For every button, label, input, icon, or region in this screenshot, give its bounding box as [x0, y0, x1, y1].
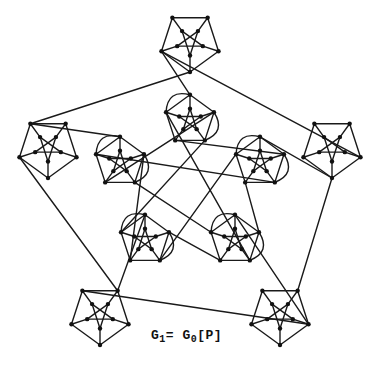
edge	[303, 152, 319, 157]
vertex	[209, 230, 213, 234]
vertex	[322, 135, 326, 139]
graph-figure	[0, 0, 381, 368]
edge	[100, 324, 129, 345]
vertex	[74, 155, 78, 159]
edge	[280, 324, 309, 345]
edge	[71, 319, 87, 324]
edge	[145, 215, 169, 232]
vertex	[28, 122, 32, 126]
edge	[190, 95, 214, 112]
vertex	[226, 247, 230, 251]
edge	[30, 72, 190, 124]
vertex	[118, 148, 122, 152]
vertex	[46, 159, 50, 163]
vertex	[248, 258, 252, 262]
vertex	[188, 70, 192, 74]
vertex	[164, 110, 168, 114]
vertex	[132, 234, 136, 238]
vertex	[216, 49, 220, 53]
edge	[161, 51, 360, 157]
vertex	[222, 234, 226, 238]
vertex	[234, 152, 238, 156]
edge	[61, 152, 77, 157]
vertex	[38, 135, 42, 139]
vertex	[249, 322, 253, 326]
figure-caption: G1= G0[P]	[151, 328, 222, 345]
edge	[251, 324, 280, 345]
vertex	[244, 234, 248, 238]
vertex	[301, 155, 305, 159]
vertex	[175, 44, 179, 48]
vertex	[218, 258, 222, 262]
edge	[245, 182, 259, 232]
vertex	[247, 156, 251, 160]
vertex	[278, 326, 282, 330]
vertex	[270, 302, 274, 306]
vertex	[111, 317, 115, 321]
vertex	[188, 53, 192, 57]
edge	[251, 291, 262, 325]
vertex	[167, 230, 171, 234]
vertex	[98, 326, 102, 330]
vertex	[159, 49, 163, 53]
vertex	[63, 122, 67, 126]
vertex	[343, 150, 347, 154]
edge	[30, 124, 40, 137]
vertex	[243, 180, 247, 184]
edge	[298, 291, 309, 325]
edge	[161, 46, 177, 51]
edge	[303, 124, 314, 158]
edge	[71, 291, 82, 325]
vertex	[126, 322, 130, 326]
edge	[298, 178, 332, 291]
vertex	[205, 16, 209, 20]
edge	[340, 124, 350, 137]
vertex	[46, 176, 50, 180]
caption-eq: = G	[166, 328, 191, 343]
edge	[96, 154, 105, 182]
vertex	[265, 317, 269, 321]
vertex	[80, 289, 84, 293]
vertex	[143, 226, 147, 230]
vertex	[201, 44, 205, 48]
vertex	[143, 213, 147, 217]
vertex	[54, 135, 58, 139]
vertex	[115, 289, 119, 293]
vertex	[233, 213, 237, 217]
vertex	[286, 302, 290, 306]
edge	[198, 18, 208, 31]
edge	[161, 18, 172, 52]
edge	[172, 18, 182, 31]
edge	[208, 18, 219, 52]
vertex	[173, 138, 177, 142]
edge	[135, 182, 211, 232]
vertex	[338, 135, 342, 139]
vertex	[158, 258, 162, 262]
edge	[235, 215, 309, 324]
edge	[19, 157, 48, 178]
edge	[96, 137, 120, 154]
edge	[203, 46, 219, 51]
vertex	[317, 150, 321, 154]
edge	[113, 319, 129, 324]
vertex	[251, 169, 255, 173]
vertex	[306, 322, 310, 326]
edge	[19, 152, 35, 157]
vertex	[264, 169, 268, 173]
vertex	[94, 152, 98, 156]
edge	[251, 319, 267, 324]
vertex	[273, 180, 277, 184]
edge	[332, 157, 361, 178]
edge	[262, 291, 272, 304]
vertex	[257, 230, 261, 234]
vertex	[330, 159, 334, 163]
vertex	[149, 247, 153, 251]
vertex	[233, 226, 237, 230]
vertex	[199, 114, 203, 118]
vertex	[129, 156, 133, 160]
vertex	[17, 155, 21, 159]
vertex	[107, 156, 111, 160]
vertex	[282, 152, 286, 156]
vertex	[106, 302, 110, 306]
vertex	[358, 155, 362, 159]
